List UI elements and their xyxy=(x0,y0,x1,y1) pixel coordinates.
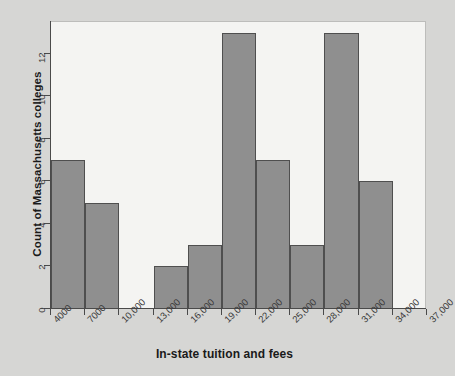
x-axis-title: In-state tuition and fees xyxy=(0,347,449,361)
plot-area xyxy=(51,22,425,308)
histogram-bar xyxy=(256,160,290,309)
x-axis-tick xyxy=(118,309,119,315)
x-axis-tick xyxy=(392,309,393,315)
x-axis-tick xyxy=(84,309,85,315)
plot-frame xyxy=(50,21,426,309)
x-axis-tick xyxy=(255,309,256,315)
y-axis-title: Count of Massachusetts colleges xyxy=(31,20,43,308)
y-axis-line xyxy=(50,21,51,309)
histogram-bar xyxy=(359,181,393,309)
histogram-bar xyxy=(222,33,256,309)
x-axis-tick xyxy=(426,309,427,315)
x-axis-tick xyxy=(358,309,359,315)
x-axis-tick-label: 37,000 xyxy=(427,296,455,324)
x-axis-tick xyxy=(289,309,290,315)
x-axis-tick xyxy=(323,309,324,315)
x-axis-tick xyxy=(153,309,154,315)
histogram-bar xyxy=(85,203,119,309)
x-axis-tick xyxy=(221,309,222,315)
histogram-bar xyxy=(51,160,85,309)
y-axis-tick-label: 0 xyxy=(36,308,47,349)
x-axis-tick xyxy=(50,309,51,315)
x-axis-tick xyxy=(187,309,188,315)
histogram-bar xyxy=(324,33,358,309)
